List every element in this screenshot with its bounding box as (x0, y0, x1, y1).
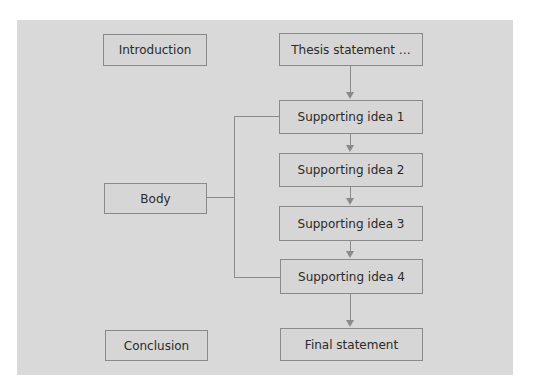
connector-idea4-to-final (350, 294, 351, 321)
body-bracket-vertical (234, 116, 235, 278)
connector-thesis-to-idea1 (350, 66, 351, 93)
supporting-idea-1-label: Supporting idea 1 (298, 110, 405, 124)
body-bracket-stub (207, 197, 234, 198)
introduction-label: Introduction (119, 43, 192, 57)
supporting-idea-2-box: Supporting idea 2 (279, 153, 423, 187)
final-statement-label: Final statement (305, 338, 398, 352)
conclusion-label: Conclusion (124, 339, 189, 353)
supporting-idea-1-box: Supporting idea 1 (279, 100, 423, 134)
supporting-idea-4-box: Supporting idea 4 (280, 259, 423, 294)
arrow-head-icon (346, 92, 354, 99)
supporting-idea-3-box: Supporting idea 3 (279, 206, 423, 241)
conclusion-box: Conclusion (105, 330, 208, 361)
arrow-head-icon (346, 145, 354, 152)
supporting-idea-4-label: Supporting idea 4 (298, 270, 405, 284)
body-label: Body (140, 192, 170, 206)
thesis-statement-label: Thesis statement … (291, 43, 411, 57)
arrow-head-icon (346, 198, 354, 205)
thesis-statement-box: Thesis statement … (279, 33, 423, 66)
body-bracket-top-arm (234, 116, 279, 117)
arrow-head-icon (346, 320, 354, 327)
arrow-head-icon (346, 251, 354, 258)
supporting-idea-2-label: Supporting idea 2 (298, 163, 405, 177)
body-bracket-bottom-arm (234, 277, 280, 278)
diagram-panel (17, 20, 513, 375)
body-box: Body (104, 183, 207, 214)
final-statement-box: Final statement (280, 328, 423, 361)
introduction-box: Introduction (103, 34, 207, 66)
supporting-idea-3-label: Supporting idea 3 (298, 217, 405, 231)
